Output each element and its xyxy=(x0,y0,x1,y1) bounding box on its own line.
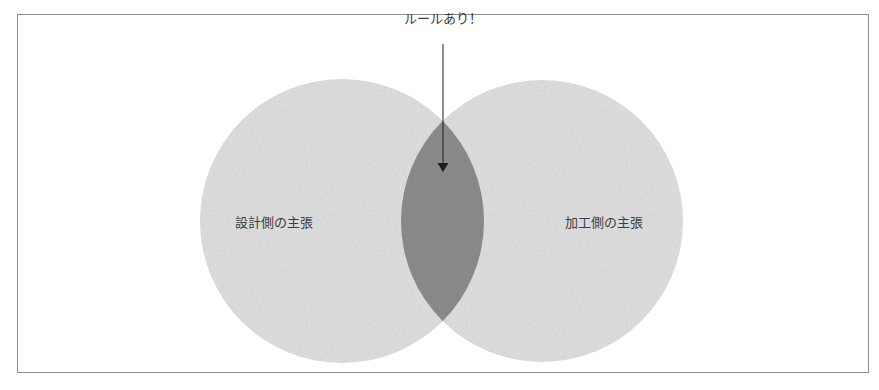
annotation-label: ルールあり！ xyxy=(404,8,482,27)
right-set-label: 加工側の主張 xyxy=(565,212,643,231)
left-set-label: 設計側の主張 xyxy=(235,212,313,231)
venn-diagram xyxy=(0,0,879,390)
